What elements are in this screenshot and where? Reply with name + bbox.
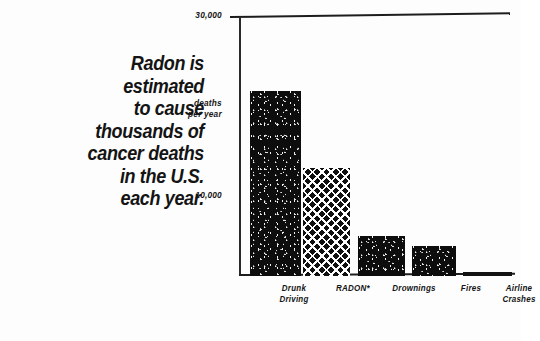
x-axis-label-2-line-1: Drownings — [380, 283, 448, 294]
bar-airline-crashes — [463, 272, 512, 276]
x-axis-label-2: Drownings — [380, 283, 448, 294]
headline-line-4: thousands of — [33, 120, 204, 143]
bar-fires — [412, 246, 456, 276]
x-axis-label-0-line-2: Driving — [264, 294, 324, 305]
bar-drownings — [358, 236, 405, 276]
bar-drunk-driving — [250, 91, 301, 276]
x-axis-category-labels: DrunkDrivingRADON*DrowningsFiresAirlineC… — [240, 283, 518, 323]
x-axis-label-4: AirlineCrashes — [488, 283, 540, 305]
x-axis-label-0: DrunkDriving — [264, 283, 324, 305]
headline-line-1: Radon is — [33, 52, 204, 75]
bar-radon — [303, 168, 350, 276]
plot-area — [240, 8, 515, 276]
y-axis-unit-label: deaths per year — [148, 98, 222, 120]
x-axis-label-4-line-2: Crashes — [488, 294, 540, 305]
headline-line-6: in the U.S. — [33, 165, 204, 188]
y-axis-tick-label-10000: 10,000 — [148, 190, 222, 201]
x-axis-label-1: RADON* — [324, 283, 382, 294]
page-title: Radon is estimated to cause thousands of… — [33, 52, 204, 210]
y-axis-unit-line-1: deaths — [148, 98, 222, 109]
y-axis-unit-line-2: per year — [148, 109, 222, 120]
y-axis-tick-label-30000: 30,000 — [148, 10, 222, 21]
x-axis-label-1-line-1: RADON* — [324, 283, 382, 294]
x-axis-label-4-line-1: Airline — [488, 283, 540, 294]
x-axis-label-0-line-1: Drunk — [264, 283, 324, 294]
headline-line-2: estimated — [33, 75, 204, 98]
headline-line-5: cancer deaths — [33, 142, 204, 165]
